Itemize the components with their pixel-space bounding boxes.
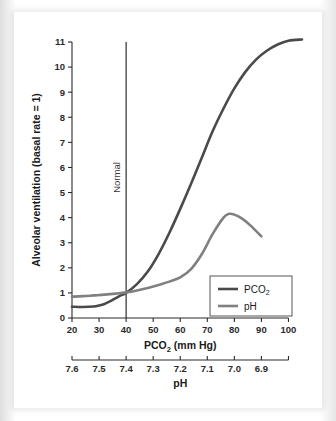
- y-axis-tick-label: 4: [60, 212, 66, 223]
- x-axis-tick-label: 20: [67, 324, 78, 335]
- x-axis-tick-label: 40: [121, 324, 132, 335]
- ph-axis-tick-label: 7.6: [65, 363, 78, 374]
- legend: PCO2pH: [210, 276, 292, 316]
- x-axis-pco2: 2030405060708090100: [67, 318, 297, 335]
- x-axis-tick-label: 80: [229, 324, 240, 335]
- y-axis-tick-label: 10: [54, 61, 65, 72]
- ph-axis-tick-label: 7.5: [92, 363, 106, 374]
- x-axis-tick-label: 30: [94, 324, 105, 335]
- respiratory-response-chart: 01234567891011 2030405060708090100 7.67.…: [14, 12, 322, 408]
- series-line-pco2: [72, 39, 302, 306]
- y-axis-tick-label: 2: [60, 262, 65, 273]
- y-axis-tick-label: 11: [55, 36, 66, 47]
- figure-root: 01234567891011 2030405060708090100 7.67.…: [0, 0, 336, 421]
- legend-label-ph: pH: [244, 301, 257, 312]
- ph-axis-tick-label: 7.0: [228, 363, 241, 374]
- axis-titles: Alveolar ventilation (basal rate = 1)PCO…: [30, 93, 216, 389]
- x-axis-tick-label: 60: [175, 324, 186, 335]
- figure-card: 01234567891011 2030405060708090100 7.67.…: [14, 12, 322, 408]
- y-axis-tick-label: 7: [60, 137, 65, 148]
- y-axis-tick-label: 8: [60, 112, 65, 123]
- x-axis-tick-label: 90: [256, 324, 267, 335]
- y-axis-tick-label: 5: [60, 187, 66, 198]
- y-axis-title: Alveolar ventilation (basal rate = 1): [30, 93, 42, 267]
- y-axis-tick-label: 6: [60, 162, 65, 173]
- ph-axis-tick-label: 7.1: [201, 363, 215, 374]
- x-axis-ph: 7.67.57.47.37.27.17.06.9: [65, 356, 288, 374]
- y-axis-tick-label: 1: [60, 287, 66, 298]
- y-axis: 01234567891011: [54, 36, 72, 323]
- x-axis-tick-label: 50: [148, 324, 159, 335]
- x-axis-title: PCO2 (mm Hg): [144, 339, 216, 354]
- normal-label: Normal: [111, 162, 122, 193]
- y-axis-tick-label: 0: [60, 312, 65, 323]
- ph-axis-tick-label: 7.3: [147, 363, 160, 374]
- ph-axis-tick-label: 6.9: [255, 363, 268, 374]
- ph-axis-tick-label: 7.4: [120, 363, 134, 374]
- ph-axis-tick-label: 7.2: [174, 363, 187, 374]
- ph-axis-title: pH: [173, 377, 187, 389]
- normal-reference-line: Normal: [111, 42, 126, 318]
- x-axis-tick-label: 70: [202, 324, 213, 335]
- x-axis-tick-label: 100: [281, 324, 297, 335]
- series-group: [72, 39, 302, 306]
- y-axis-tick-label: 9: [60, 87, 65, 98]
- y-axis-tick-label: 3: [60, 237, 65, 248]
